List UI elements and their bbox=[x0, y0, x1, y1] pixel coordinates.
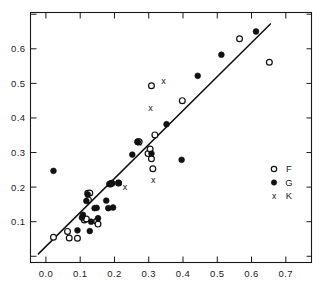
x-tick-label: 0.6 bbox=[244, 268, 258, 279]
data-point-filled-circle bbox=[103, 198, 109, 204]
data-point-filled-circle bbox=[116, 180, 122, 186]
data-point-cross-x: x bbox=[151, 175, 156, 185]
data-point-cross-x: x bbox=[123, 182, 128, 192]
legend-marker-filled-circle bbox=[271, 180, 276, 185]
legend-entry-label: G bbox=[285, 177, 292, 188]
y-tick-label: 0.3 bbox=[11, 147, 25, 158]
axis-ticks bbox=[31, 13, 312, 263]
x-tick-label: 0.3 bbox=[142, 268, 156, 279]
y-axis-tick-labels: 0.10.20.30.40.50.6 bbox=[11, 43, 25, 227]
data-point-cross-x: x bbox=[148, 103, 153, 113]
data-point-filled-circle bbox=[129, 152, 135, 158]
legend: FGxK bbox=[271, 163, 293, 201]
data-point-filled-circle bbox=[51, 168, 57, 174]
data-point-filled-circle bbox=[94, 205, 100, 211]
data-point-open-circle bbox=[75, 235, 81, 241]
x-tick-label: 0.1 bbox=[73, 268, 87, 279]
data-point-open-circle bbox=[179, 98, 185, 104]
x-tick-label: 0.4 bbox=[176, 268, 190, 279]
data-point-open-circle bbox=[150, 166, 156, 172]
data-point-filled-circle bbox=[83, 198, 89, 204]
data-point-open-circle bbox=[66, 235, 72, 241]
legend-entry-label: K bbox=[286, 190, 293, 201]
scatter-plot-figure: 0.00.10.20.30.40.50.60.7 0.10.20.30.40.5… bbox=[0, 0, 321, 289]
data-point-filled-circle bbox=[95, 215, 101, 221]
data-point-open-circle bbox=[95, 221, 101, 227]
data-point-open-circle bbox=[152, 132, 158, 138]
data-point-cross-x: x bbox=[161, 76, 166, 86]
data-point-filled-circle bbox=[85, 191, 91, 197]
axes-frame bbox=[31, 13, 312, 263]
data-point-open-circle bbox=[237, 36, 243, 42]
data-point-open-circle bbox=[65, 228, 71, 234]
legend-marker-open-circle bbox=[271, 166, 276, 171]
series-f-points bbox=[51, 36, 273, 241]
data-point-filled-circle bbox=[149, 151, 155, 157]
reference-line bbox=[38, 24, 270, 254]
data-point-filled-circle bbox=[75, 227, 81, 233]
y-tick-label: 0.1 bbox=[11, 216, 25, 227]
data-point-filled-circle bbox=[164, 121, 170, 127]
data-point-filled-circle bbox=[195, 73, 201, 79]
y-tick-label: 0.5 bbox=[11, 78, 25, 89]
data-point-filled-circle bbox=[109, 180, 115, 186]
legend-entry-label: F bbox=[286, 163, 292, 174]
x-tick-label: 0.0 bbox=[39, 268, 53, 279]
series-g-points bbox=[51, 29, 259, 234]
data-point-filled-circle bbox=[110, 205, 116, 211]
data-point-open-circle bbox=[266, 59, 272, 65]
data-point-cross-x: x bbox=[137, 138, 142, 148]
data-point-open-circle bbox=[51, 234, 57, 240]
x-tick-label: 0.2 bbox=[107, 268, 121, 279]
data-point-filled-circle bbox=[87, 228, 93, 234]
y-tick-label: 0.6 bbox=[11, 43, 25, 54]
data-point-filled-circle bbox=[88, 219, 94, 225]
data-point-filled-circle bbox=[80, 212, 86, 218]
data-point-filled-circle bbox=[179, 157, 185, 163]
y-tick-label: 0.2 bbox=[11, 182, 25, 193]
data-point-filled-circle bbox=[253, 29, 259, 35]
chart-canvas: 0.00.10.20.30.40.50.60.7 0.10.20.30.40.5… bbox=[0, 0, 321, 289]
x-tick-label: 0.7 bbox=[279, 268, 293, 279]
y-tick-label: 0.4 bbox=[11, 112, 25, 123]
x-axis-tick-labels: 0.00.10.20.30.40.50.60.7 bbox=[39, 268, 293, 279]
legend-marker-cross-x: x bbox=[272, 191, 277, 201]
data-point-filled-circle bbox=[218, 52, 224, 58]
x-tick-label: 0.5 bbox=[210, 268, 224, 279]
data-point-open-circle bbox=[149, 83, 155, 89]
